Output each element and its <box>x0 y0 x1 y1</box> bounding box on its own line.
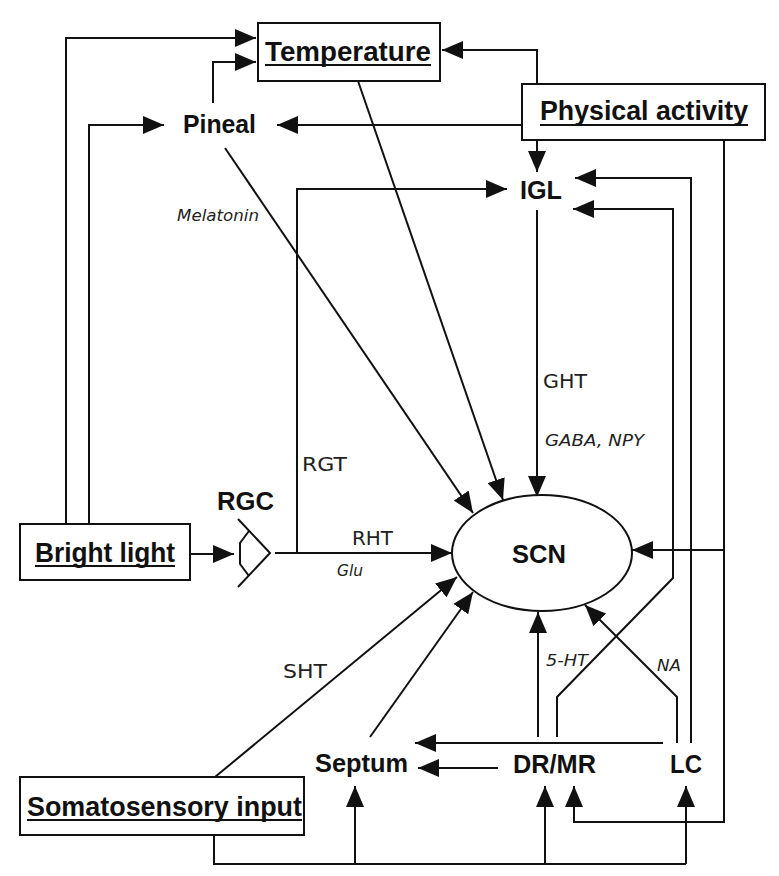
edge-pineal-to-scn-melatonin <box>225 148 473 513</box>
glu-label: Glu <box>337 562 363 580</box>
circadian-input-diagram: Temperature Physical activity Bright lig… <box>0 0 779 876</box>
edge-somatosensory-trunk <box>214 835 686 864</box>
rgc-label: RGC <box>217 487 274 515</box>
noradrenaline-label: NA <box>657 657 681 675</box>
edge-pineal-to-temperature <box>213 62 256 103</box>
somatosensory-input-box: Somatosensory input <box>20 777 304 835</box>
scn-label: SCN <box>512 540 566 568</box>
lc-label: LC <box>670 750 702 778</box>
retina-eye-icon <box>238 519 270 587</box>
dr-mr-label: DR/MR <box>513 750 596 778</box>
diagram-svg: Temperature Physical activity Bright lig… <box>0 0 779 876</box>
somatosensory-input-label: Somatosensory input <box>27 792 302 822</box>
rht-pathway-label: RHT <box>352 527 393 549</box>
temperature-box: Temperature <box>258 23 440 81</box>
melatonin-label: Melatonin <box>177 207 259 225</box>
igl-label: IGL <box>520 176 562 204</box>
edge-rgt-rgc-to-igl <box>297 189 507 553</box>
edge-physical-activity-to-dr-mr <box>574 140 724 822</box>
gaba-npy-label: GABA, NPY <box>545 432 646 450</box>
edge-physical-activity-to-temperature <box>442 50 537 84</box>
edge-temperature-to-scn <box>358 81 503 500</box>
bright-light-label: Bright light <box>35 538 175 568</box>
rgt-pathway-label: RGT <box>302 453 347 475</box>
edge-sht-somatosensory-to-scn <box>215 577 457 777</box>
physical-activity-label: Physical activity <box>540 96 748 126</box>
serotonin-label: 5-HT <box>546 652 590 670</box>
ght-pathway-label: GHT <box>543 370 587 392</box>
pineal-label: Pineal <box>183 110 256 138</box>
edge-bright-light-to-pineal <box>89 125 164 524</box>
bright-light-box: Bright light <box>20 524 190 580</box>
sht-pathway-label: SHT <box>283 660 327 682</box>
edge-septum-to-scn <box>370 592 473 737</box>
physical-activity-box: Physical activity <box>522 84 765 140</box>
septum-label: Septum <box>315 749 408 777</box>
temperature-label: Temperature <box>265 37 431 67</box>
